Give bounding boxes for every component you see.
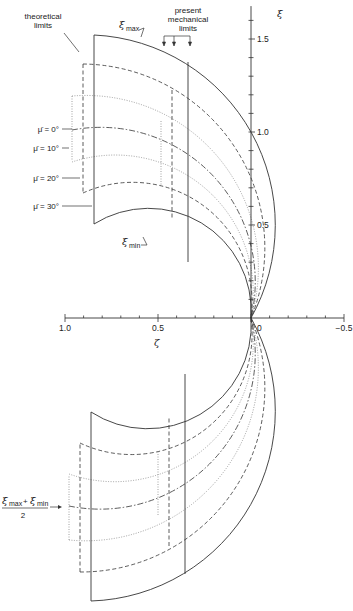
curve-mu-30-lower-upper bbox=[83, 182, 252, 318]
svg-text:ξ: ξ bbox=[2, 495, 8, 506]
zeta-tick-label: 0 bbox=[257, 323, 262, 333]
svg-text:ξ: ξ bbox=[30, 495, 36, 506]
curve-xi-min-lower bbox=[91, 318, 251, 429]
curve-mu-20-lower-lower bbox=[69, 318, 253, 482]
theoretical-limits-label-line2: limits bbox=[34, 21, 52, 30]
mu-label-30: μ̄ = 30° bbox=[33, 202, 59, 211]
horizontal-axis-symbol: ζ bbox=[154, 337, 160, 348]
xi-tick-label: 0.5 bbox=[257, 220, 269, 230]
zeta-tick-label: −0.5 bbox=[336, 323, 353, 333]
mechanical-limits-label-line2: mechanical bbox=[168, 15, 209, 24]
svg-text:ξ: ξ bbox=[119, 19, 125, 30]
curve-mu-30-upper-upper bbox=[83, 64, 265, 318]
mechanical-limits-arrows bbox=[163, 36, 192, 46]
svg-text:min: min bbox=[129, 242, 140, 249]
svg-text:ξ: ξ bbox=[122, 236, 128, 247]
zeta-xi-diagram: 1.00.50−0.50.51.01.5 ξ ζ theoretical lim… bbox=[0, 0, 353, 611]
mechanical-limits-label-line1: present bbox=[175, 6, 202, 15]
theoretical-limits-label-line1: theoretical bbox=[25, 12, 62, 21]
curve-mu-20-upper-lower bbox=[69, 318, 258, 541]
svg-text:max: max bbox=[126, 25, 140, 32]
curve-mu-20-lower-upper bbox=[72, 155, 253, 318]
mean-xi-label: ξ max + ξ min 2 bbox=[2, 495, 62, 520]
vertical-axis-symbol: ξ bbox=[277, 8, 283, 19]
mu-label-10: μ̄ = 10° bbox=[33, 144, 59, 153]
mu-label-0: μ̄ = 0° bbox=[38, 125, 59, 134]
curve-mean-lower bbox=[69, 318, 255, 509]
curve-xi-max-lower bbox=[91, 318, 275, 601]
xi-tick-label: 1.5 bbox=[257, 34, 269, 44]
svg-text:max: max bbox=[9, 500, 23, 507]
curve-mu-20-upper-upper bbox=[72, 95, 258, 318]
mechanical-limits-label-line3: limits bbox=[179, 24, 197, 33]
curve-xi-min-upper bbox=[94, 208, 251, 318]
theoretical-limits-leader bbox=[64, 33, 79, 52]
mu-label-20: μ̄ = 20° bbox=[33, 174, 59, 183]
xi-tick-label: 1.0 bbox=[257, 127, 269, 137]
axes: 1.00.50−0.50.51.01.5 bbox=[59, 6, 353, 333]
svg-text:2: 2 bbox=[21, 511, 26, 520]
svg-text:min: min bbox=[37, 500, 48, 507]
zeta-tick-label: 1.0 bbox=[59, 323, 71, 333]
svg-text:+: + bbox=[23, 497, 28, 506]
xi-min-label: ξ min bbox=[122, 236, 147, 249]
zeta-tick-label: 0.5 bbox=[152, 323, 164, 333]
curve-xi-max-upper bbox=[94, 35, 275, 318]
curve-mu-30-upper-lower bbox=[80, 318, 265, 572]
curve-mu-30-lower-lower bbox=[80, 318, 252, 455]
xi-max-label: ξ max bbox=[119, 19, 144, 37]
